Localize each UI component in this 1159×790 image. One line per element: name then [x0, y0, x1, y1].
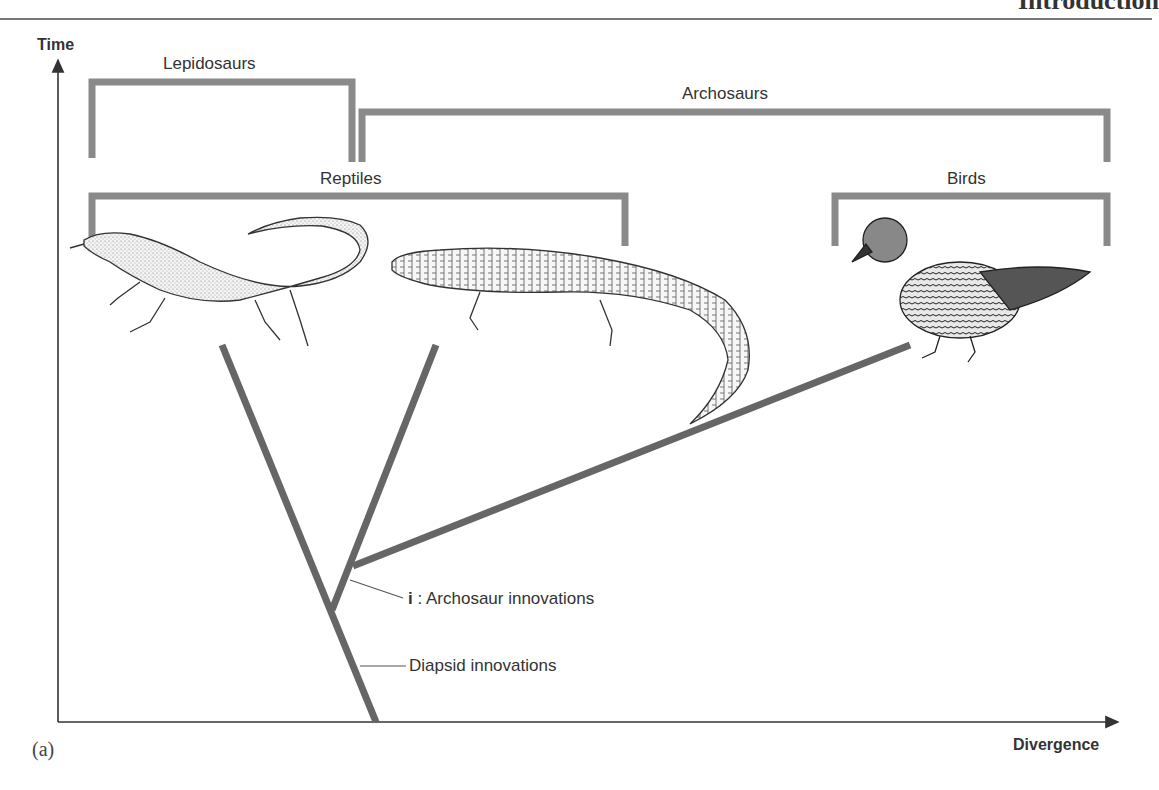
- archosaur-leader-line: [350, 580, 403, 598]
- label-archosaurs: Archosaurs: [682, 84, 768, 104]
- y-axis-label: Time: [37, 36, 74, 54]
- duck-illustration: [852, 218, 1090, 362]
- crocodile-illustration: [392, 248, 749, 424]
- figure-label: (a): [32, 738, 54, 761]
- label-lepidosaurs: Lepidosaurs: [163, 54, 256, 74]
- annotation-archosaur-innovations: i : Archosaur innovations: [408, 589, 594, 609]
- label-birds: Birds: [947, 169, 986, 189]
- annotation-diapsid-innovations: Diapsid innovations: [409, 656, 556, 676]
- phylogeny-diagram: [0, 0, 1159, 790]
- x-axis-label: Divergence: [1013, 736, 1099, 754]
- innovation-marker: i: [408, 589, 413, 608]
- branch-lizard: [222, 345, 376, 722]
- branch-bird: [353, 345, 910, 566]
- lizard-illustration: [70, 217, 368, 346]
- bracket-lepidosaurs: [92, 82, 352, 162]
- bracket-archosaurs: [362, 112, 1107, 162]
- label-reptiles: Reptiles: [320, 169, 381, 189]
- branch-crocodile: [332, 345, 436, 610]
- archosaur-innovations-text: : Archosaur innovations: [417, 589, 594, 608]
